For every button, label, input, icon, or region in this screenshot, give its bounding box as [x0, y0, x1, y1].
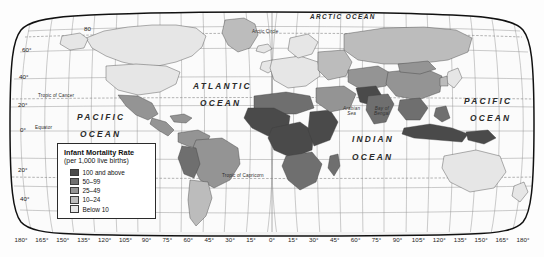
lon-tick-label: 30° — [309, 236, 319, 243]
world-map-figure: 80 60° 40° 20° 0° 20° 40° ARCTIC OCEAN A… — [0, 0, 544, 257]
lon-tick-label: 165° — [495, 236, 508, 243]
legend-row: 10–24 — [70, 195, 150, 204]
lon-tick-label: 150° — [475, 236, 488, 243]
legend-row: 50–99 — [70, 177, 150, 186]
lon-tick-label: 30° — [225, 236, 235, 243]
lon-tick-label: 90° — [393, 236, 403, 243]
legend-row: Below 10 — [70, 204, 150, 213]
lon-tick-label: 75° — [372, 236, 382, 243]
lon-tick-label: 90° — [142, 236, 152, 243]
lat-label-40s: 40° — [20, 195, 29, 202]
legend-swatch-100-and-above — [70, 169, 79, 177]
legend-row: 25–49 — [70, 186, 150, 195]
legend-label: 25–49 — [83, 187, 101, 194]
map-legend: Infant Mortality Rate (per 1,000 live bi… — [57, 143, 156, 219]
lon-tick-label: 0° — [269, 236, 275, 243]
lon-tick-label: 105° — [412, 236, 425, 243]
lon-tick-label: 45° — [330, 236, 340, 243]
lat-label-0: 0° — [20, 126, 26, 133]
legend-label: 100 and above — [83, 169, 125, 176]
lon-tick-label: 60° — [183, 236, 193, 243]
legend-swatch-50-99 — [70, 178, 79, 186]
lon-tick-label: 165° — [35, 236, 48, 243]
region-korea — [440, 76, 448, 86]
lon-tick-label: 75° — [163, 236, 173, 243]
lon-tick-label: 15° — [288, 236, 298, 243]
lat-label-20s: 20° — [18, 166, 27, 173]
lat-label-20n: 20° — [18, 101, 27, 108]
lon-tick-label: 45° — [204, 236, 214, 243]
lon-tick-label: 180° — [14, 236, 27, 243]
lon-tick-label: 105° — [119, 236, 132, 243]
lon-tick-label: 60° — [351, 236, 361, 243]
legend-label: Below 10 — [83, 206, 109, 213]
lon-tick-label: 120° — [433, 236, 446, 243]
longitude-axis: 180°165°150°135°120°105°90°75°60°45°30°1… — [0, 236, 544, 252]
legend-row: 100 and above — [70, 168, 150, 177]
lat-label-80n: 80 — [84, 25, 91, 32]
lon-tick-label: 150° — [56, 236, 69, 243]
lon-tick-label: 120° — [98, 236, 111, 243]
legend-title: Infant Mortality Rate — [64, 148, 150, 157]
lat-label-40n: 40° — [19, 73, 28, 80]
legend-swatch-10-24 — [70, 196, 79, 204]
legend-label: 10–24 — [83, 196, 101, 203]
lat-label-60n: 60° — [22, 46, 31, 53]
legend-swatch-25-49 — [70, 187, 79, 195]
legend-swatch-below-10 — [70, 205, 79, 213]
lon-tick-label: 135° — [454, 236, 467, 243]
legend-label: 50–99 — [83, 178, 101, 185]
lon-tick-label: 15° — [246, 236, 256, 243]
legend-subtitle: (per 1,000 live births) — [64, 157, 150, 166]
lon-tick-label: 180° — [516, 236, 529, 243]
lon-tick-label: 135° — [77, 236, 90, 243]
